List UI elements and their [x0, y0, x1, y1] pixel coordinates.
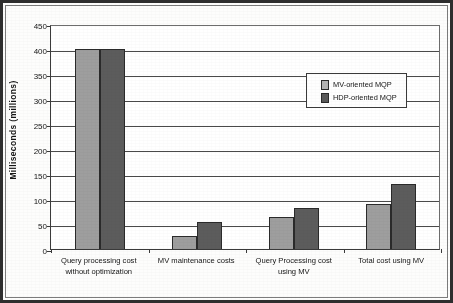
x-axis-category-label: Query Processing cost using MV [245, 255, 343, 297]
legend-label: HDP-oriented MQP [333, 93, 397, 102]
x-axis-category-label: Query processing cost without optimizati… [50, 255, 148, 297]
chart-figure: Milliseconds (millions) 0501001502002503… [0, 0, 453, 303]
y-axis-tick-label: 200 [34, 147, 47, 156]
y-axis-tick-label: 100 [34, 197, 47, 206]
y-axis-title: Milliseconds (millions) [8, 55, 22, 205]
bar [391, 184, 416, 249]
bar [75, 49, 100, 249]
x-axis-category-label: MV maintenance costs [148, 255, 246, 297]
y-axis-tick-label: 350 [34, 72, 47, 81]
x-axis-tick-mark [149, 249, 150, 253]
x-axis-tick-mark [51, 249, 52, 253]
bar [197, 222, 222, 250]
legend-swatch-icon [321, 93, 329, 103]
x-axis-category-label: Total cost using MV [343, 255, 441, 297]
y-axis-tick-label: 150 [34, 172, 47, 181]
y-axis-tick-label: 300 [34, 97, 47, 106]
x-axis-tick-mark [441, 249, 442, 253]
y-axis-tick-label: 250 [34, 122, 47, 131]
y-axis-tick-label: 50 [38, 222, 47, 231]
bar-group [148, 26, 245, 249]
x-axis-tick-mark [246, 249, 247, 253]
chart-legend: MV-oriented MQP HDP-oriented MQP [306, 73, 407, 108]
bar-group [245, 26, 342, 249]
legend-swatch-icon [321, 80, 329, 90]
bar-series-container [51, 26, 439, 249]
plot-area: 050100150200250300350400450 MV-oriented … [50, 25, 440, 250]
x-axis-labels: Query processing cost without optimizati… [50, 255, 440, 297]
x-axis-tick-mark [344, 249, 345, 253]
bar [269, 217, 294, 250]
y-axis-tick-label: 450 [34, 22, 47, 31]
bar [100, 49, 125, 249]
bar-group [342, 26, 439, 249]
y-axis-tick-label: 400 [34, 47, 47, 56]
bar [366, 204, 391, 249]
bar [294, 208, 319, 249]
bar [172, 236, 197, 250]
legend-label: MV-oriented MQP [333, 80, 392, 89]
legend-item: MV-oriented MQP [321, 78, 406, 91]
legend-item: HDP-oriented MQP [321, 91, 406, 104]
bar-group [51, 26, 148, 249]
